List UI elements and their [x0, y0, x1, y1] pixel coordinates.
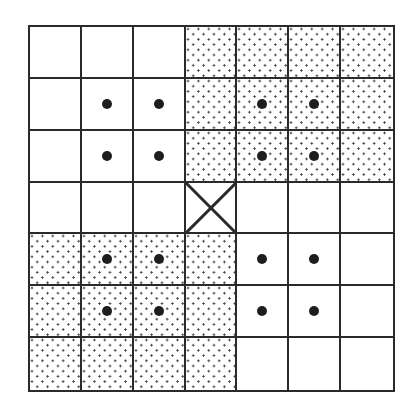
- plain-cell: [237, 234, 289, 286]
- center-x-cell: [186, 183, 238, 235]
- plain-cell: [341, 234, 393, 286]
- marker-dot-icon: [154, 151, 164, 161]
- plain-cell: [341, 286, 393, 338]
- plain-cell: [134, 131, 186, 183]
- marker-dot-icon: [102, 99, 112, 109]
- plain-cell: [341, 338, 393, 390]
- plain-cell: [237, 338, 289, 390]
- plain-cell: [30, 131, 82, 183]
- plain-cell: [237, 286, 289, 338]
- marker-dot-icon: [102, 151, 112, 161]
- stippled-cell: [30, 286, 82, 338]
- plain-cell: [289, 338, 341, 390]
- marker-dot-icon: [309, 99, 319, 109]
- marker-dot-icon: [257, 99, 267, 109]
- stippled-cell: [186, 79, 238, 131]
- stippled-cell: [134, 286, 186, 338]
- marker-dot-icon: [309, 306, 319, 316]
- stippled-cell: [237, 79, 289, 131]
- stippled-cell: [289, 131, 341, 183]
- plain-cell: [30, 27, 82, 79]
- plain-cell: [134, 79, 186, 131]
- stippled-cell: [30, 234, 82, 286]
- marker-dot-icon: [309, 254, 319, 264]
- stippled-cell: [186, 27, 238, 79]
- stippled-cell: [289, 27, 341, 79]
- stippled-cell: [82, 234, 134, 286]
- stippled-cell: [134, 234, 186, 286]
- plain-cell: [289, 183, 341, 235]
- marker-dot-icon: [154, 99, 164, 109]
- plain-cell: [341, 183, 393, 235]
- plain-cell: [289, 234, 341, 286]
- plain-cell: [134, 183, 186, 235]
- stippled-cell: [341, 27, 393, 79]
- marker-dot-icon: [257, 151, 267, 161]
- marker-dot-icon: [154, 306, 164, 316]
- marker-dot-icon: [309, 151, 319, 161]
- plain-cell: [237, 183, 289, 235]
- stippled-cell: [186, 234, 238, 286]
- stippled-cell: [134, 338, 186, 390]
- plain-cell: [82, 79, 134, 131]
- stippled-cell: [237, 131, 289, 183]
- plain-cell: [82, 27, 134, 79]
- stippled-cell: [341, 131, 393, 183]
- plain-cell: [30, 79, 82, 131]
- marker-dot-icon: [257, 306, 267, 316]
- stippled-cell: [82, 286, 134, 338]
- marker-dot-icon: [102, 306, 112, 316]
- marker-dot-icon: [102, 254, 112, 264]
- plain-cell: [82, 131, 134, 183]
- stippled-cell: [30, 338, 82, 390]
- stippled-cell: [341, 79, 393, 131]
- marker-dot-icon: [154, 254, 164, 264]
- plain-cell: [289, 286, 341, 338]
- stippled-cell: [186, 338, 238, 390]
- stippled-cell: [186, 286, 238, 338]
- marker-dot-icon: [257, 254, 267, 264]
- grid-diagram: [28, 25, 395, 392]
- plain-cell: [134, 27, 186, 79]
- stippled-cell: [289, 79, 341, 131]
- stippled-cell: [186, 131, 238, 183]
- plain-cell: [82, 183, 134, 235]
- plain-cell: [30, 183, 82, 235]
- stippled-cell: [237, 27, 289, 79]
- x-mark-icon: [186, 183, 236, 233]
- stippled-cell: [82, 338, 134, 390]
